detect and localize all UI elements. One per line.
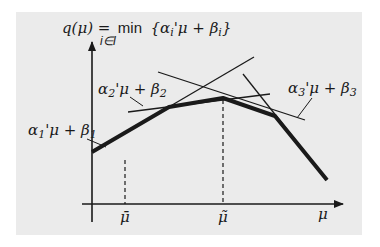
piecewise-linear-diagram: q(μ) = min {αi'μ + βi} i∈I α1'μ + β1 α2'… — [0, 0, 380, 247]
formula-title: q(μ) = min {αi'μ + βi} — [62, 19, 231, 39]
label-3-leader — [297, 98, 312, 118]
formula-subscript: i∈I — [100, 34, 117, 48]
label-line-2: α2'μ + β2 — [98, 80, 167, 100]
tick-mu-bar: μ̄ — [120, 208, 130, 226]
min-envelope — [92, 98, 327, 180]
tick-mu-tilde: μ̃ — [218, 208, 228, 226]
label-2-leader — [130, 97, 143, 106]
label-line-1: α1'μ + β1 — [28, 121, 97, 141]
label-line-3: α3'μ + β3 — [288, 79, 357, 99]
line-4 — [158, 72, 305, 120]
x-axis-label: μ — [318, 205, 328, 223]
